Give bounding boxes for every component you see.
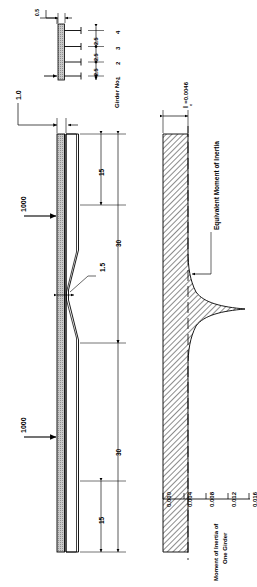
ie-label-group: Ie=0.0046 — [175, 82, 193, 108]
axis-tick-2: 0.008 — [209, 492, 215, 507]
ie-symbol: I — [182, 106, 189, 108]
spacing-label-1: 2.5 — [94, 68, 100, 76]
deck-thickness-dimension — [40, 10, 72, 24]
dimension-top-15: 15 — [99, 169, 106, 176]
deck-width-label: 1.0 — [15, 90, 22, 100]
figure-canvas: 0.5 2.5 2.5 2.5 1 2 3 4 Girder No. 1.0 1… — [0, 0, 257, 587]
dimension-lower-30: 30 — [116, 449, 123, 456]
axis-tick-3: 0.012 — [231, 492, 237, 507]
load-label-top: 1000 — [20, 196, 27, 212]
axis-tick-1: 0.004 — [187, 492, 193, 507]
girder-number-3: 3 — [115, 47, 121, 50]
axis-title-line1: Moment of Inertia of — [213, 524, 219, 581]
load-label-bottom: 1000 — [20, 417, 27, 433]
deck-thickness-label: 0.5 — [35, 9, 40, 16]
load-arrows — [24, 216, 56, 437]
spacing-label-2: 2.5 — [94, 53, 100, 61]
drawing-vector-layer — [0, 0, 257, 587]
ie-subscript: e — [188, 104, 193, 106]
width-dimension-1p0 — [18, 103, 78, 133]
ie-dimension-bracket — [163, 110, 188, 133]
length-dimension-ladder — [80, 134, 126, 552]
girder-number-4: 4 — [115, 31, 121, 34]
girder-number-2: 2 — [115, 62, 121, 65]
equivalent-label-leader — [192, 232, 211, 274]
axis-title-line2: One Girder — [222, 533, 228, 564]
neck-width-label: 1.5 — [100, 263, 107, 272]
dimension-bottom-15: 15 — [99, 517, 106, 524]
axis-tick-4: 0.016 — [252, 492, 257, 507]
dimension-upper-30: 30 — [116, 240, 123, 247]
equivalent-moment-label: Equivalent Moment of Inertia — [214, 141, 221, 230]
ie-value: =0.0046 — [183, 82, 189, 104]
spacing-label-3: 2.5 — [94, 37, 100, 45]
girder-stems — [65, 27, 82, 80]
axis-tick-0: 0.000 — [166, 492, 172, 507]
girder-no-title: Girder No. — [114, 79, 120, 108]
girder-elevation-group — [18, 103, 126, 552]
